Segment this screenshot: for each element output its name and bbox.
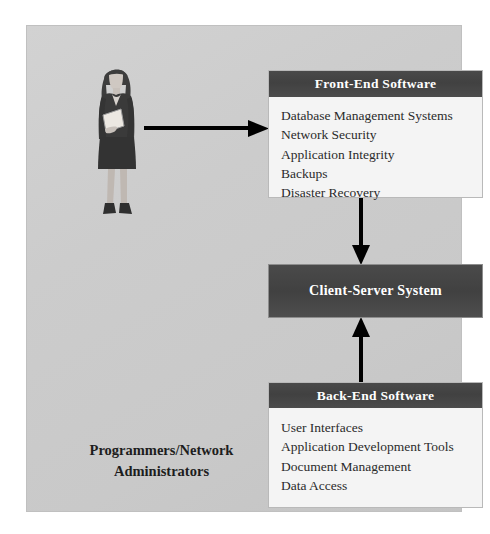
front-end-software-list: Database Management Systems Network Secu… (269, 97, 482, 202)
arrow-front-end-to-client-server (350, 197, 372, 265)
list-item: Disaster Recovery (281, 183, 482, 202)
back-end-software-list: User Interfaces Application Development … (269, 408, 482, 495)
list-item: Database Management Systems (281, 106, 482, 125)
caption-line-1: Programmers/Network (64, 440, 259, 461)
list-item: Application Development Tools (281, 437, 482, 456)
diagram-panel: Front-End Software Database Management S… (26, 25, 462, 512)
list-item: Data Access (281, 476, 482, 495)
list-item: User Interfaces (281, 418, 482, 437)
front-end-software-box: Front-End Software Database Management S… (269, 71, 482, 197)
caption-line-2: Administrators (64, 461, 259, 482)
back-end-software-title: Back-End Software (269, 383, 482, 408)
front-end-software-title: Front-End Software (269, 71, 482, 97)
list-item: Network Security (281, 125, 482, 144)
programmers-network-administrators-label: Programmers/Network Administrators (64, 440, 259, 482)
arrow-back-end-to-client-server (350, 317, 372, 383)
client-server-system-box: Client-Server System (269, 265, 482, 317)
diagram-canvas: Front-End Software Database Management S… (0, 0, 490, 534)
list-item: Application Integrity (281, 145, 482, 164)
list-item: Backups (281, 164, 482, 183)
businesswoman-figure (81, 63, 161, 223)
back-end-software-box: Back-End Software User Interfaces Applic… (269, 383, 482, 507)
businesswoman-icon (81, 63, 161, 223)
client-server-system-title: Client-Server System (269, 265, 482, 317)
list-item: Document Management (281, 457, 482, 476)
arrow-person-to-front-end (144, 119, 269, 139)
